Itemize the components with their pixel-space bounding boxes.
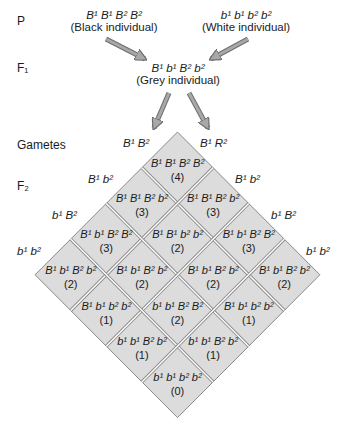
cell-count: (3): [242, 242, 255, 254]
arrow-f1-to-gametes-right: [189, 93, 208, 128]
cell-count: (2): [171, 314, 184, 326]
cell-count: (1): [100, 314, 113, 326]
cell-genotype: B¹ b¹ B² B²: [80, 228, 132, 240]
cell-count: (2): [135, 278, 148, 290]
cell-count: (1): [206, 349, 219, 361]
cell-genotype: B¹ b¹ b² b²: [224, 300, 274, 312]
cell-count: (3): [135, 206, 148, 218]
cell-count: (2): [206, 278, 219, 290]
gamete-left-3: b¹ b²: [17, 245, 41, 257]
cell-genotype: B¹ b¹ b² b²: [82, 300, 132, 312]
gamete-left-2: b¹ B²: [52, 209, 77, 221]
cell-count: (2): [64, 278, 77, 290]
gamete-left-0: B¹ B²: [123, 137, 149, 149]
cell-count: (2): [278, 278, 291, 290]
cell-genotype: b¹ b¹ B² b²: [188, 335, 238, 347]
gamete-right-1: B¹ b²: [235, 173, 260, 185]
cell-count: (1): [135, 349, 148, 361]
gamete-left-1: B¹ b²: [88, 173, 113, 185]
cell-genotype: B¹ b¹ B² b²: [45, 264, 96, 276]
arrow-f1-to-gametes-left: [154, 93, 169, 128]
gamete-right-2: b¹ B²: [271, 209, 296, 221]
cell-genotype: B¹ b¹ B² b²: [117, 264, 168, 276]
arrow-black-to-f1: [106, 39, 145, 59]
cell-genotype: b¹ b¹ b² b²: [153, 371, 202, 383]
cell-count: (4): [171, 171, 184, 183]
gamete-right-3: b¹ b²: [306, 245, 330, 257]
punnett-diamond: B¹ B¹ B² B²(4)B¹ B¹ B² b²(3)B¹ b¹ B² B²(…: [35, 132, 320, 418]
cell-count: (2): [171, 242, 184, 254]
cell-count: (0): [171, 385, 184, 397]
cell-genotype: b¹ b¹ B² B²: [152, 300, 203, 312]
cell-genotype: B¹ b¹ B² b²: [188, 264, 239, 276]
cell-count: (3): [206, 206, 219, 218]
cell-genotype: B¹ B¹ B² b²: [187, 192, 239, 204]
arrow-white-to-f1: [211, 39, 248, 59]
cell-genotype: B¹ b¹ B² b²: [259, 264, 310, 276]
cell-genotype: B¹ B¹ b² b²: [152, 228, 203, 240]
cell-genotype: B¹ b¹ B² B²: [223, 228, 275, 240]
cell-count: (3): [100, 242, 113, 254]
gamete-right-0: B¹ R²: [200, 137, 227, 149]
cell-genotype: B¹ B¹ B² B²: [151, 157, 205, 169]
cell-genotype: B¹ B¹ B² b²: [116, 192, 168, 204]
cell-count: (1): [242, 314, 255, 326]
cell-genotype: b¹ b¹ B² b²: [117, 335, 167, 347]
